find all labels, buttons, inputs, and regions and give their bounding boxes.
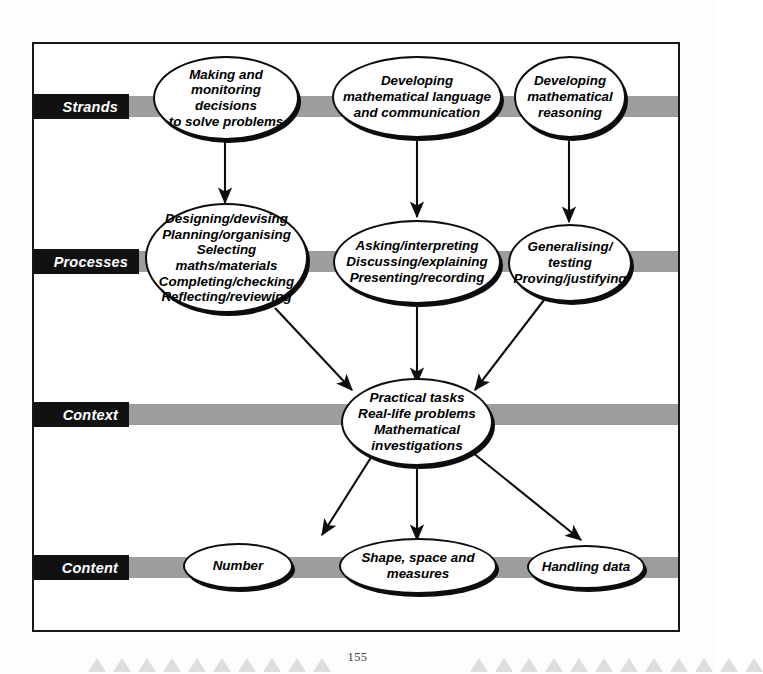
node-strand-3[interactable]: Developingmathematicalreasoning: [514, 56, 626, 138]
footer-triangles-right: [470, 655, 763, 672]
node-content-2-label: Shape, space andmeasures: [355, 550, 480, 581]
footer-triangle-icon: [138, 658, 156, 672]
node-strand-1[interactable]: Making andmonitoring decisionsto solve p…: [153, 56, 299, 140]
footer-triangle-icon: [620, 658, 638, 672]
node-strand-3-label: Developingmathematicalreasoning: [521, 73, 619, 120]
footer-triangles-left: [88, 655, 331, 672]
footer-triangle-icon: [188, 658, 206, 672]
footer-triangle-icon: [595, 658, 613, 672]
footer-triangle-icon: [288, 658, 306, 672]
footer-triangle-icon: [520, 658, 538, 672]
node-content-1[interactable]: Number: [183, 543, 293, 589]
node-content-1-label: Number: [207, 558, 270, 574]
node-content-3[interactable]: Handling data: [527, 545, 645, 589]
footer-triangle-icon: [470, 658, 488, 672]
footer-triangle-icon: [570, 658, 588, 672]
footer-triangle-icon: [695, 658, 713, 672]
footer-triangle-icon: [313, 658, 331, 672]
footer-triangle-icon: [238, 658, 256, 672]
footer-triangle-icon: [263, 658, 281, 672]
node-strand-2[interactable]: Developingmathematical languageand commu…: [332, 56, 502, 138]
edge-context-content3: [457, 440, 581, 540]
node-content-2[interactable]: Shape, space andmeasures: [339, 538, 497, 594]
footer-triangle-icon: [645, 658, 663, 672]
node-process-1[interactable]: Designing/devisingPlanning/organisingSel…: [145, 203, 308, 313]
footer-triangle-icon: [670, 658, 688, 672]
node-content-3-label: Handling data: [536, 559, 637, 575]
footer-triangle-icon: [163, 658, 181, 672]
node-process-3[interactable]: Generalising/testingProving/justifying: [508, 224, 632, 302]
edge-process3-context: [475, 300, 544, 390]
footer-triangle-icon: [88, 658, 106, 672]
node-process-3-label: Generalising/testingProving/justifying: [507, 239, 632, 286]
node-strand-1-label: Making andmonitoring decisionsto solve p…: [155, 67, 297, 130]
footer-triangle-icon: [720, 658, 738, 672]
footer-triangle-icon: [113, 658, 131, 672]
node-context-1[interactable]: Practical tasksReal-life problemsMathema…: [341, 378, 493, 466]
node-process-2-label: Asking/interpretingDiscussing/explaining…: [340, 238, 493, 285]
node-process-2[interactable]: Asking/interpretingDiscussing/explaining…: [333, 220, 501, 304]
footer-triangle-icon: [495, 658, 513, 672]
edge-process1-context: [275, 308, 352, 390]
node-context-1-label: Practical tasksReal-life problemsMathema…: [352, 390, 482, 454]
footer-triangle-icon: [213, 658, 231, 672]
node-process-1-label: Designing/devisingPlanning/organisingSel…: [147, 211, 306, 305]
footer-triangle-icon: [745, 658, 763, 672]
footer-triangle-icon: [545, 658, 563, 672]
node-strand-2-label: Developingmathematical languageand commu…: [337, 73, 497, 120]
